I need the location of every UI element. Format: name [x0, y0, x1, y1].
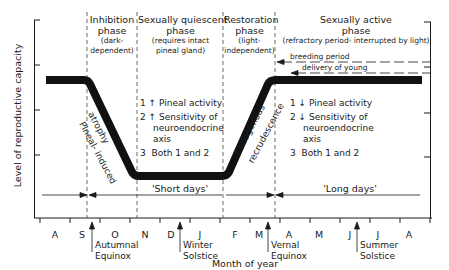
phase-active: Sexually active phase (refractory period…: [276, 14, 436, 46]
month-label: J: [368, 229, 388, 240]
list-item: axis: [290, 134, 374, 145]
breeding-period-label: breeding period: [290, 52, 350, 62]
list-item: 1 ↓ Pineal activity: [290, 98, 374, 109]
delivery-of-young-label: delivery of young: [302, 63, 367, 73]
event-line: Summer: [360, 240, 398, 251]
phase-title: phase: [276, 25, 436, 36]
phase-note: (light-: [224, 36, 275, 46]
month-label: M: [253, 229, 265, 240]
event-line: Solstice: [360, 251, 398, 262]
active-factors-list: 1 ↓ Pineal activity 2 ↓ Sensitivity of n…: [290, 98, 374, 159]
list-item: 2 ↓ Sensitivity of: [290, 112, 374, 123]
phase-note: (dark-: [88, 36, 136, 46]
phase-title: Inhibition: [88, 14, 136, 25]
phase-quiescent: Sexually quiescent phase (requires intac…: [138, 14, 223, 56]
short-days-label: 'Short days': [150, 183, 210, 194]
phase-title: Sexually active: [276, 14, 436, 25]
list-item: neuroendocrine: [140, 123, 224, 134]
event-line: Vernal: [271, 240, 307, 251]
list-item: axis: [140, 134, 224, 145]
event-line: Autumnal: [95, 240, 139, 251]
month-label: D: [165, 229, 177, 240]
month-ticks: [40, 218, 430, 223]
month-label: F: [225, 229, 245, 240]
event-line: Winter: [183, 240, 218, 251]
phase-note: (requires intact: [138, 36, 223, 46]
event-line: Equinox: [95, 251, 139, 262]
phase-inhibition: Inhibition phase (dark- dependent): [88, 14, 136, 56]
quiescent-factors-list: 1 ↑ Pineal activity 2 ↑ Sensitivity of n…: [140, 98, 224, 159]
phase-note: dependent): [88, 46, 136, 56]
right-axis: [424, 22, 431, 218]
month-label: O: [105, 229, 125, 240]
month-label: S: [75, 229, 89, 240]
phase-note: (refractory period- interrupted by light…: [276, 36, 436, 46]
phase-title: Restoration: [224, 14, 275, 25]
phase-restoration: Restoration phase (light- independent): [224, 14, 275, 56]
month-label: N: [135, 229, 155, 240]
month-label: J: [346, 229, 354, 240]
phase-title: phase: [138, 25, 223, 36]
list-item: 3 Both 1 and 2: [290, 148, 374, 159]
month-label: J: [190, 229, 210, 240]
list-item: 1 ↑ Pineal activity: [140, 98, 224, 109]
phase-title: phase: [88, 25, 136, 36]
phase-title: phase: [224, 25, 275, 36]
summer-solstice-label: Summer Solstice: [360, 240, 398, 262]
phase-note: independent): [224, 46, 275, 56]
long-days-label: 'Long days': [320, 183, 380, 194]
list-item: 3 Both 1 and 2: [140, 148, 224, 159]
y-axis-label: Level of reproductive capacity: [12, 41, 23, 191]
x-axis-label: Month of year: [195, 258, 295, 269]
month-label: A: [399, 229, 419, 240]
month-label: A: [279, 229, 299, 240]
month-label: A: [45, 229, 65, 240]
month-label: M: [309, 229, 329, 240]
list-item: 2 ↑ Sensitivity of: [140, 112, 224, 123]
phase-title: Sexually quiescent: [138, 14, 223, 25]
list-item: neuroendocrine: [290, 123, 374, 134]
phase-note: pineal gland): [138, 46, 223, 56]
autumnal-equinox-label: Autumnal Equinox: [95, 240, 139, 262]
